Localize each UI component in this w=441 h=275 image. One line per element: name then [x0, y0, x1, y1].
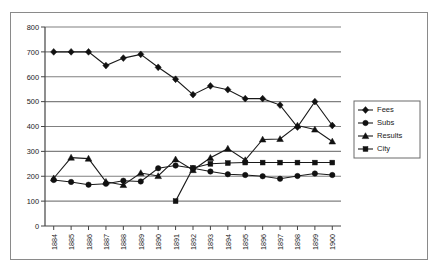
- x-tick-label-1892: 1892: [189, 234, 198, 250]
- x-tick-label-1893: 1893: [206, 234, 215, 250]
- legend-marker-city: [363, 147, 368, 152]
- datapoint-fees-1884: [51, 48, 57, 55]
- x-tick-label-1898: 1898: [293, 234, 302, 250]
- legend-label-fees: Fees: [377, 105, 394, 114]
- x-tick-label-1885: 1885: [67, 234, 76, 250]
- datapoint-city-1895: [243, 160, 248, 165]
- legend-marker-subs: [363, 120, 368, 125]
- y-tick-label-600: 600: [27, 73, 39, 82]
- datapoint-city-1897: [278, 160, 283, 165]
- datapoint-results-1889: [137, 170, 144, 176]
- x-tick-label-1886: 1886: [85, 234, 94, 250]
- x-tick-label-1900: 1900: [328, 234, 337, 250]
- x-tick-label-1896: 1896: [259, 234, 268, 250]
- datapoint-city-1899: [312, 160, 317, 165]
- datapoint-city-1891: [173, 199, 178, 204]
- x-tick-label-1889: 1889: [137, 234, 146, 250]
- y-tick-label-700: 700: [27, 48, 39, 57]
- datapoint-city-1894: [225, 161, 230, 166]
- x-tick-label-1891: 1891: [172, 234, 181, 250]
- x-tick-label-1897: 1897: [276, 234, 285, 250]
- datapoint-subs-1900: [330, 172, 335, 177]
- y-tick-label-300: 300: [27, 147, 39, 156]
- legend-label-results: Results: [377, 131, 403, 140]
- datapoint-subs-1889: [138, 179, 143, 184]
- chart-legend: FeesSubsResultsCity: [354, 101, 420, 158]
- legend-label-subs: Subs: [377, 118, 395, 127]
- datapoint-subs-1895: [243, 172, 248, 177]
- datapoint-subs-1898: [295, 173, 300, 178]
- y-tick-label-0: 0: [35, 222, 39, 231]
- x-tick-label-1888: 1888: [119, 234, 128, 250]
- datapoint-fees-1894: [225, 86, 231, 93]
- datapoint-fees-1890: [155, 64, 161, 71]
- datapoint-subs-1885: [68, 179, 73, 184]
- y-tick-label-800: 800: [27, 23, 39, 32]
- datapoint-city-1892: [191, 166, 196, 171]
- x-tick-label-1887: 1887: [102, 234, 111, 250]
- series-results: [50, 122, 335, 187]
- legend-label-city: City: [377, 144, 390, 153]
- datapoint-subs-1896: [260, 174, 265, 179]
- series-line-city: [176, 163, 333, 202]
- datapoint-fees-1896: [260, 95, 266, 102]
- datapoint-fees-1893: [207, 83, 213, 90]
- datapoint-city-1893: [208, 161, 213, 166]
- datapoint-results-1893: [207, 155, 214, 161]
- datapoint-subs-1890: [155, 166, 160, 171]
- y-tick-label-100: 100: [27, 197, 39, 206]
- datapoint-subs-1891: [173, 163, 178, 168]
- datapoint-subs-1893: [208, 169, 213, 174]
- x-tick-label-1894: 1894: [224, 234, 233, 250]
- datapoint-results-1894: [225, 145, 232, 151]
- datapoint-results-1891: [172, 156, 179, 162]
- x-tick-label-1890: 1890: [154, 234, 163, 250]
- y-tick-label-200: 200: [27, 172, 39, 181]
- series-city: [173, 160, 335, 203]
- datapoint-subs-1899: [312, 171, 317, 176]
- y-tick-label-500: 500: [27, 97, 39, 106]
- y-tick-label-400: 400: [27, 122, 39, 131]
- datapoint-city-1898: [295, 160, 300, 165]
- datapoint-city-1900: [330, 160, 335, 165]
- datapoint-fees-1895: [242, 95, 248, 102]
- chart-frame: 0100200300400500600700800188418851886188…: [10, 12, 428, 260]
- line-chart: 0100200300400500600700800188418851886188…: [11, 13, 429, 261]
- datapoint-fees-1888: [120, 55, 126, 62]
- datapoint-subs-1897: [277, 176, 282, 181]
- datapoint-fees-1885: [68, 48, 74, 55]
- x-tick-label-1899: 1899: [311, 234, 320, 250]
- datapoint-results-1900: [329, 138, 336, 144]
- datapoint-city-1896: [260, 160, 265, 165]
- series-line-fees: [54, 52, 333, 127]
- datapoint-subs-1886: [86, 182, 91, 187]
- x-tick-label-1884: 1884: [50, 234, 59, 250]
- x-tick-label-1895: 1895: [241, 234, 250, 250]
- datapoint-subs-1894: [225, 172, 230, 177]
- series-fees: [51, 48, 336, 130]
